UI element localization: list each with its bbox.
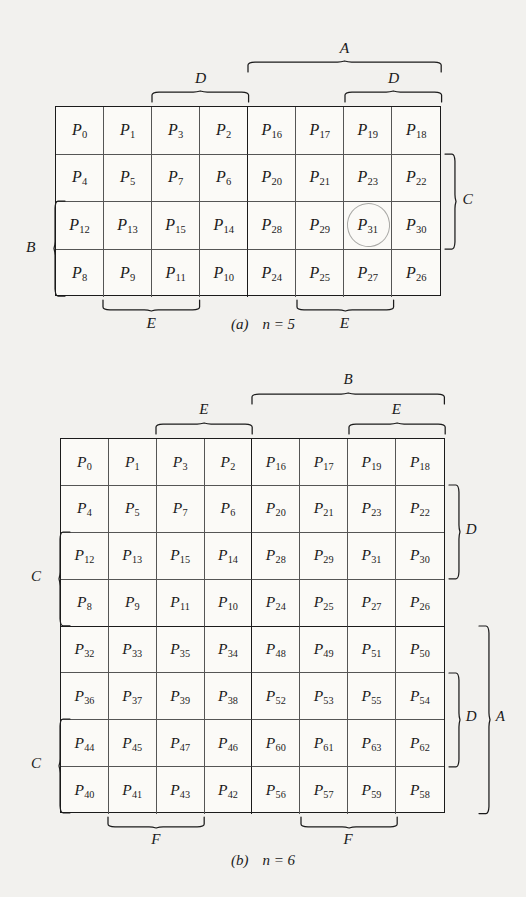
cell-p63[interactable]: P63 xyxy=(348,720,396,767)
cell-p23[interactable]: P23 xyxy=(344,155,392,203)
cell-p3[interactable]: P3 xyxy=(152,107,200,155)
cell-p4[interactable]: P4 xyxy=(61,486,109,533)
cell-p47[interactable]: P47 xyxy=(157,720,205,767)
cell-p14[interactable]: P14 xyxy=(205,533,253,580)
cell-p53[interactable]: P53 xyxy=(300,673,348,720)
cell-p51[interactable]: P51 xyxy=(348,627,396,674)
cell-p17[interactable]: P17 xyxy=(296,107,344,155)
cell-p6[interactable]: P6 xyxy=(205,486,253,533)
cell-p10[interactable]: P10 xyxy=(205,580,253,627)
cell-p16[interactable]: P16 xyxy=(248,107,296,155)
cell-p49[interactable]: P49 xyxy=(300,627,348,674)
cell-p5[interactable]: P5 xyxy=(104,155,152,203)
cell-p19[interactable]: P19 xyxy=(348,439,396,486)
cell-p58[interactable]: P58 xyxy=(396,767,444,814)
cell-p60[interactable]: P60 xyxy=(252,720,300,767)
cell-p22[interactable]: P22 xyxy=(392,155,440,203)
cell-p7[interactable]: P7 xyxy=(152,155,200,203)
cell-p18[interactable]: P18 xyxy=(392,107,440,155)
cell-p19[interactable]: P19 xyxy=(344,107,392,155)
cell-p46[interactable]: P46 xyxy=(205,720,253,767)
cell-p39[interactable]: P39 xyxy=(157,673,205,720)
cell-label: P31 xyxy=(358,216,379,235)
cell-p15[interactable]: P15 xyxy=(157,533,205,580)
brace-f-bottom-3 xyxy=(108,816,204,829)
cell-p2[interactable]: P2 xyxy=(200,107,248,155)
cell-p20[interactable]: P20 xyxy=(248,155,296,203)
cell-label: P31 xyxy=(362,546,382,565)
cell-p27[interactable]: P27 xyxy=(344,250,392,298)
cell-p25[interactable]: P25 xyxy=(300,580,348,627)
cell-p32[interactable]: P32 xyxy=(61,627,109,674)
cell-p35[interactable]: P35 xyxy=(157,627,205,674)
cell-p37[interactable]: P37 xyxy=(109,673,157,720)
cell-p30[interactable]: P30 xyxy=(392,202,440,250)
cell-p10[interactable]: P10 xyxy=(200,250,248,298)
cell-p22[interactable]: P22 xyxy=(396,486,444,533)
cell-p42[interactable]: P42 xyxy=(205,767,253,814)
cell-p14[interactable]: P14 xyxy=(200,202,248,250)
cell-label: P21 xyxy=(309,168,330,187)
cell-p43[interactable]: P43 xyxy=(157,767,205,814)
cell-p48[interactable]: P48 xyxy=(252,627,300,674)
cell-p29[interactable]: P29 xyxy=(300,533,348,580)
cell-p16[interactable]: P16 xyxy=(252,439,300,486)
cell-p38[interactable]: P38 xyxy=(205,673,253,720)
cell-p13[interactable]: P13 xyxy=(109,533,157,580)
cell-p2[interactable]: P2 xyxy=(205,439,253,486)
cell-p55[interactable]: P55 xyxy=(348,673,396,720)
cell-p9[interactable]: P9 xyxy=(104,250,152,298)
figure-b-row: P40P41P43P42P56P57P59P58 xyxy=(61,767,444,814)
cell-p18[interactable]: P18 xyxy=(396,439,444,486)
cell-p21[interactable]: P21 xyxy=(300,486,348,533)
cell-p9[interactable]: P9 xyxy=(109,580,157,627)
cell-p34[interactable]: P34 xyxy=(205,627,253,674)
cell-p26[interactable]: P26 xyxy=(396,580,444,627)
cell-p30[interactable]: P30 xyxy=(396,533,444,580)
cell-p31[interactable]: P31 xyxy=(348,533,396,580)
cell-p1[interactable]: P1 xyxy=(109,439,157,486)
cell-label: P4 xyxy=(72,168,87,187)
cell-p33[interactable]: P33 xyxy=(109,627,157,674)
cell-label: P55 xyxy=(362,687,382,706)
cell-p7[interactable]: P7 xyxy=(157,486,205,533)
cell-p6[interactable]: P6 xyxy=(200,155,248,203)
cell-p29[interactable]: P29 xyxy=(296,202,344,250)
cell-p52[interactable]: P52 xyxy=(252,673,300,720)
cell-p62[interactable]: P62 xyxy=(396,720,444,767)
cell-p31[interactable]: P31 xyxy=(344,202,392,250)
cell-p45[interactable]: P45 xyxy=(109,720,157,767)
cell-p27[interactable]: P27 xyxy=(348,580,396,627)
cell-p61[interactable]: P61 xyxy=(300,720,348,767)
cell-p0[interactable]: P0 xyxy=(61,439,109,486)
cell-p21[interactable]: P21 xyxy=(296,155,344,203)
cell-p36[interactable]: P36 xyxy=(61,673,109,720)
cell-p28[interactable]: P28 xyxy=(252,533,300,580)
cell-p50[interactable]: P50 xyxy=(396,627,444,674)
cell-label: P7 xyxy=(168,168,183,187)
cell-p24[interactable]: P24 xyxy=(252,580,300,627)
cell-p57[interactable]: P57 xyxy=(300,767,348,814)
cell-p13[interactable]: P13 xyxy=(104,202,152,250)
cell-p26[interactable]: P26 xyxy=(392,250,440,298)
cell-p15[interactable]: P15 xyxy=(152,202,200,250)
cell-p17[interactable]: P17 xyxy=(300,439,348,486)
cell-label: P22 xyxy=(406,168,427,187)
cell-p23[interactable]: P23 xyxy=(348,486,396,533)
cell-p11[interactable]: P11 xyxy=(157,580,205,627)
cell-p59[interactable]: P59 xyxy=(348,767,396,814)
cell-label: P10 xyxy=(218,593,238,612)
cell-p5[interactable]: P5 xyxy=(109,486,157,533)
cell-p4[interactable]: P4 xyxy=(56,155,104,203)
cell-p25[interactable]: P25 xyxy=(296,250,344,298)
cell-p56[interactable]: P56 xyxy=(252,767,300,814)
cell-p11[interactable]: P11 xyxy=(152,250,200,298)
cell-p3[interactable]: P3 xyxy=(157,439,205,486)
cell-p54[interactable]: P54 xyxy=(396,673,444,720)
cell-p1[interactable]: P1 xyxy=(104,107,152,155)
cell-p41[interactable]: P41 xyxy=(109,767,157,814)
cell-p28[interactable]: P28 xyxy=(248,202,296,250)
cell-p20[interactable]: P20 xyxy=(252,486,300,533)
cell-p24[interactable]: P24 xyxy=(248,250,296,298)
cell-p0[interactable]: P0 xyxy=(56,107,104,155)
